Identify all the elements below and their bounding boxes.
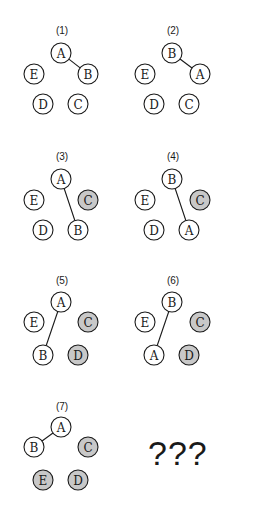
svg-text:A: A: [184, 224, 194, 238]
svg-text:E: E: [39, 474, 48, 488]
node-B: B: [33, 345, 53, 365]
svg-text:E: E: [30, 316, 39, 330]
unknown-panel-question-marks: ???: [148, 434, 208, 473]
svg-text:E: E: [30, 194, 39, 208]
svg-text:E: E: [30, 68, 39, 82]
node-C: C: [190, 312, 210, 332]
node-D: D: [68, 345, 88, 365]
svg-text:B: B: [168, 173, 177, 187]
node-E: E: [135, 312, 155, 332]
edge-B-A: [175, 188, 186, 220]
svg-text:C: C: [184, 98, 193, 112]
svg-text:C: C: [195, 194, 204, 208]
edge-A-B: [64, 188, 75, 220]
svg-text:A: A: [195, 68, 205, 82]
svg-text:A: A: [56, 173, 66, 187]
svg-text:B: B: [168, 47, 177, 61]
svg-text:D: D: [184, 349, 194, 363]
node-E: E: [24, 312, 44, 332]
node-B: B: [78, 64, 98, 84]
panel-2: (2)BEADC: [135, 25, 210, 114]
svg-text:E: E: [141, 194, 150, 208]
panel-label: (4): [167, 151, 179, 162]
panel-3: (3)AECDB: [24, 151, 98, 240]
svg-text:C: C: [73, 98, 82, 112]
svg-text:E: E: [141, 68, 150, 82]
node-C: C: [78, 190, 98, 210]
svg-text:D: D: [149, 98, 159, 112]
node-A: A: [51, 417, 71, 437]
edge-B-A: [180, 59, 192, 68]
panel-label: (3): [56, 151, 68, 162]
svg-text:C: C: [83, 441, 92, 455]
panel-label: (5): [56, 275, 68, 286]
svg-text:A: A: [56, 47, 66, 61]
svg-text:D: D: [73, 474, 83, 488]
node-D: D: [33, 94, 53, 114]
node-D: D: [144, 94, 164, 114]
node-E: E: [24, 64, 44, 84]
panel-label: (1): [56, 25, 68, 36]
node-E: E: [24, 190, 44, 210]
panel-7: (7)ABCED: [24, 401, 98, 490]
svg-text:B: B: [39, 349, 48, 363]
node-B: B: [68, 220, 88, 240]
panel-label: (2): [167, 25, 179, 36]
node-A: A: [51, 169, 71, 189]
node-E: E: [33, 470, 53, 490]
panel-1: (1)AEBDC: [24, 25, 98, 114]
node-D: D: [144, 220, 164, 240]
panel-5: (5)AECBD: [24, 275, 98, 365]
node-B: B: [24, 437, 44, 457]
panel-4: (4)BECDA: [135, 151, 210, 240]
svg-text:D: D: [149, 224, 159, 238]
edge-B-A: [157, 311, 169, 345]
node-A: A: [51, 292, 71, 312]
node-C: C: [78, 312, 98, 332]
node-A: A: [190, 64, 210, 84]
graph-sequence-diagram: (1)AEBDC(2)BEADC(3)AECDB(4)BECDA(5)AECBD…: [0, 0, 269, 519]
svg-text:C: C: [195, 316, 204, 330]
node-B: B: [162, 169, 182, 189]
svg-text:C: C: [83, 316, 92, 330]
node-D: D: [68, 470, 88, 490]
node-E: E: [135, 64, 155, 84]
svg-text:B: B: [74, 224, 83, 238]
svg-text:D: D: [73, 349, 83, 363]
svg-text:B: B: [30, 441, 39, 455]
svg-text:C: C: [83, 194, 92, 208]
node-A: A: [51, 43, 71, 63]
node-D: D: [33, 220, 53, 240]
node-E: E: [135, 190, 155, 210]
edge-A-B: [42, 433, 53, 441]
node-C: C: [179, 94, 199, 114]
node-A: A: [179, 220, 199, 240]
node-C: C: [78, 437, 98, 457]
svg-text:A: A: [149, 349, 159, 363]
svg-text:E: E: [141, 316, 150, 330]
svg-text:D: D: [38, 98, 48, 112]
svg-text:B: B: [84, 68, 93, 82]
svg-text:A: A: [56, 296, 66, 310]
svg-text:D: D: [38, 224, 48, 238]
panel-label: (6): [167, 275, 179, 286]
edge-A-B: [46, 311, 58, 345]
panel-label: (7): [56, 401, 68, 412]
panel-6: (6)BECAD: [135, 275, 210, 365]
edge-A-B: [69, 59, 80, 68]
svg-text:B: B: [168, 296, 177, 310]
node-A: A: [144, 345, 164, 365]
node-D: D: [179, 345, 199, 365]
node-C: C: [190, 190, 210, 210]
node-B: B: [162, 292, 182, 312]
node-B: B: [162, 43, 182, 63]
node-C: C: [68, 94, 88, 114]
svg-text:A: A: [56, 421, 66, 435]
